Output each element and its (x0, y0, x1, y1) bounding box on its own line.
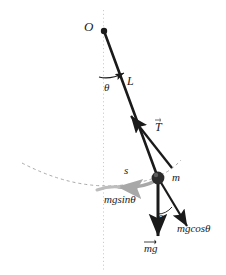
gray-arc-tail (97, 187, 119, 190)
label-pivot-O: O (84, 20, 93, 33)
label-mgsin-theta: mgsinθ (104, 194, 136, 205)
pivot-point (101, 28, 107, 34)
gray-arc-arrow (119, 180, 157, 187)
dashed-trajectory-arc (22, 163, 160, 186)
label-weight-text: mg (144, 242, 157, 254)
label-angle-theta-force: θ (158, 213, 163, 224)
label-tension-text: T (155, 120, 162, 134)
label-rod-length-L: L (127, 75, 134, 87)
pendulum-bob (152, 172, 165, 185)
label-tension-T: T (155, 121, 162, 133)
label-weight-mg: mg (144, 243, 157, 254)
label-mass-m: m (172, 172, 180, 183)
label-arc-length-s: s (124, 165, 128, 176)
pendulum-diagram: O θ L T m s mgsinθ θ mgcosθ mg (0, 0, 226, 275)
pendulum-bob-highlight (154, 173, 158, 177)
label-angle-theta-rod: θ (104, 82, 109, 93)
label-mgcos-theta: mgcosθ (177, 223, 211, 234)
pendulum-rod (104, 31, 158, 178)
mgcos-arrow (160, 181, 187, 226)
